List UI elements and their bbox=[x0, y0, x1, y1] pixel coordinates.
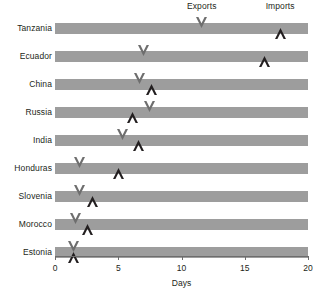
row-bar bbox=[55, 23, 308, 34]
chart-row: Honduras bbox=[0, 154, 320, 182]
chart-row: Tanzania bbox=[0, 14, 320, 42]
chevron-down-icon bbox=[195, 16, 208, 29]
category-label-china: China bbox=[29, 79, 52, 89]
x-axis-tick bbox=[308, 256, 309, 260]
category-label-morocco: Morocco bbox=[19, 219, 52, 229]
row-bar bbox=[55, 163, 308, 174]
row-bar bbox=[55, 107, 308, 118]
x-axis-tick-label: 10 bbox=[177, 263, 186, 273]
category-label-slovenia: Slovenia bbox=[19, 191, 52, 201]
chevron-up-icon bbox=[81, 223, 94, 236]
chart-row: Ecuador bbox=[0, 42, 320, 70]
x-axis-tick-label: 20 bbox=[303, 263, 312, 273]
row-bar bbox=[55, 135, 308, 146]
chevron-down-icon bbox=[143, 100, 156, 113]
x-axis-tick-label: 5 bbox=[116, 263, 121, 273]
chevron-up-icon bbox=[86, 195, 99, 208]
chevron-up-icon bbox=[112, 167, 125, 180]
x-axis-tick-label: 15 bbox=[240, 263, 249, 273]
x-axis-tick bbox=[182, 256, 183, 260]
chart-canvas: ExportsImportsTanzaniaEcuadorChinaRussia… bbox=[0, 0, 320, 295]
chevron-down-icon bbox=[137, 44, 150, 57]
chevron-down-icon bbox=[69, 212, 82, 225]
x-axis-tick bbox=[245, 256, 246, 260]
x-axis-tick bbox=[118, 256, 119, 260]
x-axis-tick-label: 0 bbox=[53, 263, 58, 273]
x-axis-tick bbox=[55, 256, 56, 260]
chevron-up-icon bbox=[132, 139, 145, 152]
chart-row: Slovenia bbox=[0, 182, 320, 210]
x-axis-title: Days bbox=[172, 278, 191, 288]
chart-row: Russia bbox=[0, 98, 320, 126]
chevron-up-icon bbox=[258, 55, 271, 68]
category-label-india: India bbox=[33, 135, 52, 145]
legend-label-imports: Imports bbox=[266, 1, 295, 11]
chevron-up-icon bbox=[274, 27, 287, 40]
chart-row: Morocco bbox=[0, 210, 320, 238]
chevron-up-icon bbox=[126, 111, 139, 124]
legend-label-exports: Exports bbox=[187, 1, 217, 11]
chevron-up-icon bbox=[145, 83, 158, 96]
chevron-down-icon bbox=[73, 184, 86, 197]
chart-row: India bbox=[0, 126, 320, 154]
row-bar bbox=[55, 79, 308, 90]
category-label-estonia: Estonia bbox=[23, 247, 52, 257]
chevron-down-icon bbox=[116, 128, 129, 141]
chevron-up-icon bbox=[67, 251, 80, 264]
chart-row: China bbox=[0, 70, 320, 98]
category-label-tanzania: Tanzania bbox=[17, 23, 52, 33]
chart-row: Estonia bbox=[0, 238, 320, 266]
category-label-russia: Russia bbox=[25, 107, 52, 117]
category-label-ecuador: Ecuador bbox=[20, 51, 52, 61]
category-label-honduras: Honduras bbox=[14, 163, 52, 173]
chevron-down-icon bbox=[73, 156, 86, 169]
